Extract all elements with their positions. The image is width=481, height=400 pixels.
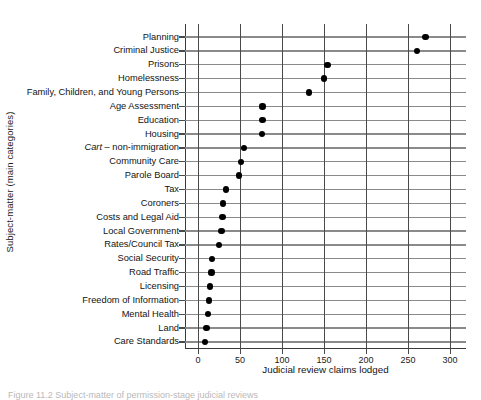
x-axis-tick bbox=[408, 349, 409, 354]
y-axis-tick-label: Community Care bbox=[0, 156, 179, 166]
y-axis-tick bbox=[179, 314, 185, 315]
y-axis-tick-label: Licensing bbox=[0, 281, 179, 291]
data-point bbox=[205, 311, 211, 317]
category-gridline bbox=[185, 230, 466, 231]
axis-spine-bottom bbox=[185, 348, 466, 349]
data-point bbox=[414, 48, 420, 54]
data-point bbox=[236, 172, 242, 178]
y-axis-tick bbox=[179, 175, 185, 176]
category-gridline bbox=[185, 50, 466, 51]
category-gridline bbox=[185, 341, 466, 342]
y-axis-tick-label: Criminal Justice bbox=[0, 45, 179, 55]
data-point bbox=[202, 339, 208, 345]
y-axis-tick-label: Education bbox=[0, 115, 179, 125]
data-point bbox=[238, 159, 244, 165]
category-gridline bbox=[185, 286, 466, 287]
y-axis-tick-label: Land bbox=[0, 323, 179, 333]
y-axis-tick bbox=[179, 106, 185, 107]
data-point bbox=[422, 34, 428, 40]
y-axis-tick bbox=[179, 147, 185, 148]
x-gridline bbox=[366, 24, 367, 349]
y-axis-tick-label: Mental Health bbox=[0, 309, 179, 319]
figure-scatter-judicial-review: Subject-matter (main categories) Plannin… bbox=[0, 0, 481, 400]
data-point bbox=[206, 297, 212, 303]
y-axis-tick bbox=[179, 64, 185, 65]
y-axis-tick-label: Family, Children, and Young Persons bbox=[0, 87, 179, 97]
x-gridline bbox=[240, 24, 241, 349]
y-axis-tick bbox=[179, 341, 185, 342]
x-axis-title: Judicial review claims lodged bbox=[185, 364, 466, 375]
y-axis-tick-label: Tax bbox=[0, 184, 179, 194]
data-point bbox=[203, 325, 209, 331]
y-axis-tick-label: Prisons bbox=[0, 59, 179, 69]
y-axis-tick-label: Local Government bbox=[0, 226, 179, 236]
x-axis-tick bbox=[240, 349, 241, 354]
category-gridline bbox=[185, 92, 466, 93]
y-axis-tick-label: Rates/Council Tax bbox=[0, 239, 179, 249]
y-axis-tick bbox=[179, 286, 185, 287]
plot-area: 050100150200250300 bbox=[185, 24, 466, 349]
y-axis-tick-label: Coroners bbox=[0, 198, 179, 208]
y-axis-tick bbox=[179, 92, 185, 93]
y-axis-tick bbox=[179, 78, 185, 79]
x-axis-tick bbox=[366, 349, 367, 354]
data-point bbox=[209, 256, 215, 262]
y-axis-tick-label: Social Security bbox=[0, 253, 179, 263]
data-point bbox=[241, 145, 247, 151]
y-axis-tick-label: Road Traffic bbox=[0, 267, 179, 277]
italic-term: Cart bbox=[84, 142, 102, 152]
y-axis-tick bbox=[179, 36, 185, 37]
data-point bbox=[208, 269, 214, 275]
y-axis-tick bbox=[179, 230, 185, 231]
y-axis-tick-label: Age Assessment bbox=[0, 101, 179, 111]
y-axis-tick-label: Parole Board bbox=[0, 170, 179, 180]
y-axis-tick bbox=[179, 133, 185, 134]
y-axis-tick bbox=[179, 161, 185, 162]
y-axis-tick-label: Care Standards bbox=[0, 336, 179, 346]
y-axis-tick bbox=[179, 217, 185, 218]
y-axis-tick bbox=[179, 50, 185, 51]
x-axis-tick bbox=[324, 349, 325, 354]
y-axis-tick-label: Costs and Legal Aid bbox=[0, 212, 179, 222]
category-gridline bbox=[185, 300, 466, 301]
x-gridline bbox=[408, 24, 409, 349]
y-axis-tick bbox=[179, 300, 185, 301]
y-axis-tick bbox=[179, 244, 185, 245]
data-point bbox=[223, 186, 229, 192]
data-point bbox=[219, 214, 225, 220]
category-gridline bbox=[185, 106, 466, 107]
y-axis-tick-labels: PlanningCriminal JusticePrisonsHomelessn… bbox=[0, 24, 179, 349]
data-point bbox=[324, 62, 330, 68]
category-gridline bbox=[185, 161, 466, 162]
category-gridline bbox=[185, 203, 466, 204]
y-axis-tick-label: Homelessness bbox=[0, 73, 179, 83]
x-axis-tick bbox=[282, 349, 283, 354]
x-gridline bbox=[324, 24, 325, 349]
data-point bbox=[216, 242, 222, 248]
category-gridline bbox=[185, 217, 466, 218]
y-axis-tick bbox=[179, 272, 185, 273]
y-axis-tick bbox=[179, 258, 185, 259]
y-axis-tick bbox=[179, 327, 185, 328]
category-gridline bbox=[185, 147, 466, 148]
data-point bbox=[259, 131, 265, 137]
category-gridline bbox=[185, 272, 466, 273]
category-gridline bbox=[185, 244, 466, 245]
data-point bbox=[207, 283, 213, 289]
x-gridline bbox=[198, 24, 199, 349]
category-gridline bbox=[185, 258, 466, 259]
data-point bbox=[321, 75, 327, 81]
y-axis-tick-label: Planning bbox=[0, 32, 179, 42]
y-axis-tick bbox=[179, 203, 185, 204]
y-axis-tick-label: Cart – non-immigration bbox=[0, 142, 179, 152]
data-point bbox=[259, 103, 265, 109]
data-point bbox=[259, 117, 265, 123]
data-point bbox=[306, 89, 312, 95]
y-axis-tick bbox=[179, 120, 185, 121]
category-gridline bbox=[185, 314, 466, 315]
category-gridline bbox=[185, 120, 466, 121]
category-gridline bbox=[185, 133, 466, 134]
data-point bbox=[220, 200, 226, 206]
x-gridline bbox=[450, 24, 451, 349]
figure-caption: Figure 11.2 Subject-matter of permission… bbox=[8, 390, 473, 400]
